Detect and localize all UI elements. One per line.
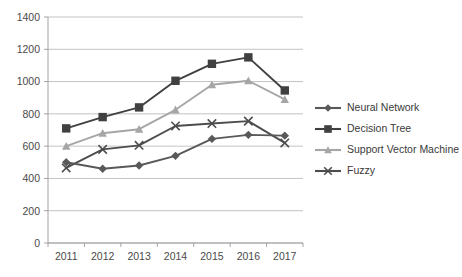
y-tick-label: 1000 — [17, 75, 41, 87]
legend-label: Decision Tree — [347, 122, 411, 134]
y-tick-label: 1400 — [17, 11, 41, 23]
chart-canvas: 1400120010008006004002000 20112012201320… — [0, 0, 462, 277]
legend-label: Support Vector Machine — [347, 143, 459, 155]
marker-square — [244, 53, 252, 61]
chart-background — [0, 0, 462, 277]
legend-label: Fuzzy — [347, 164, 376, 176]
y-tick-label: 400 — [22, 172, 40, 184]
x-tick-label: 2013 — [127, 250, 151, 262]
x-tick-label: 2016 — [237, 250, 261, 262]
y-tick-label: 600 — [22, 140, 40, 152]
y-tick-label: 1200 — [17, 43, 41, 55]
legend-label: Neural Network — [347, 101, 420, 113]
line-chart: 1400120010008006004002000 20112012201320… — [0, 0, 462, 277]
marker-square — [208, 60, 216, 68]
x-tick-label: 2012 — [91, 250, 115, 262]
x-tick-label: 2014 — [164, 250, 188, 262]
y-tick-label: 0 — [34, 237, 40, 249]
marker-square — [98, 113, 106, 121]
marker-square — [171, 77, 179, 85]
marker-square — [135, 103, 143, 111]
y-tick-label: 800 — [22, 108, 40, 120]
y-tick-label: 200 — [22, 205, 40, 217]
marker-square — [281, 86, 289, 94]
x-tick-label: 2011 — [55, 250, 78, 262]
marker-square — [324, 125, 332, 133]
marker-square — [62, 124, 70, 132]
x-tick-label: 2015 — [200, 250, 224, 262]
x-tick-label: 2017 — [273, 250, 297, 262]
